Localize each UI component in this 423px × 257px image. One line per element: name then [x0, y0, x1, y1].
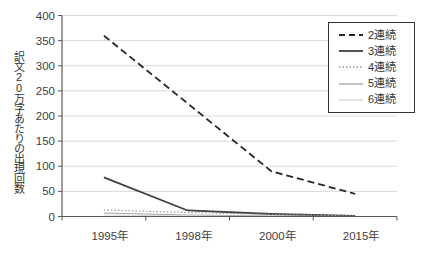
legend-label: 3連続 [368, 46, 396, 57]
y-tick-label: 100 [36, 160, 55, 172]
legend-line-sample-thin-gray [338, 80, 364, 88]
legend-item-6renzoku: 6連続 [338, 93, 412, 107]
x-tick-label: 1995年 [92, 229, 129, 242]
legend-label: 2連続 [368, 30, 396, 41]
legend-item-3renzoku: 3連続 [338, 44, 412, 58]
y-tick-label: 400 [36, 10, 55, 22]
x-tick-label: 1998年 [175, 229, 212, 242]
legend-line-sample-dashed [338, 31, 364, 39]
chart-legend: 2連続 3連続 4連続 5連続 6連続 [328, 22, 415, 113]
legend-item-5renzoku: 5連続 [338, 77, 412, 91]
y-tick-label: 50 [42, 185, 55, 197]
legend-item-4renzoku: 4連続 [338, 60, 412, 74]
y-tick-label: 300 [36, 60, 55, 72]
legend-label: 4連続 [368, 62, 396, 73]
series-line-3連続 [104, 177, 355, 216]
y-axis-title: 訳文20万字あたりの出現回数 [11, 51, 27, 193]
legend-line-sample-solid [338, 47, 364, 55]
y-tick-label: 150 [36, 135, 55, 147]
legend-line-sample-dotted [338, 63, 364, 71]
legend-label: 5連続 [368, 78, 396, 89]
y-tick-label: 200 [36, 110, 55, 122]
y-tick-label: 350 [36, 35, 55, 47]
line-chart-figure: 0501001502002503003504001995年1998年2000年2… [0, 0, 423, 257]
legend-item-2renzoku: 2連続 [338, 28, 412, 42]
legend-line-sample-light-gray [338, 96, 364, 104]
y-tick-label: 0 [49, 211, 55, 223]
x-tick-label: 2015年 [343, 229, 380, 242]
series-line-2連続 [104, 36, 355, 194]
x-tick-label: 2000年 [259, 229, 296, 242]
legend-label: 6連続 [368, 94, 396, 105]
y-tick-label: 250 [36, 85, 55, 97]
